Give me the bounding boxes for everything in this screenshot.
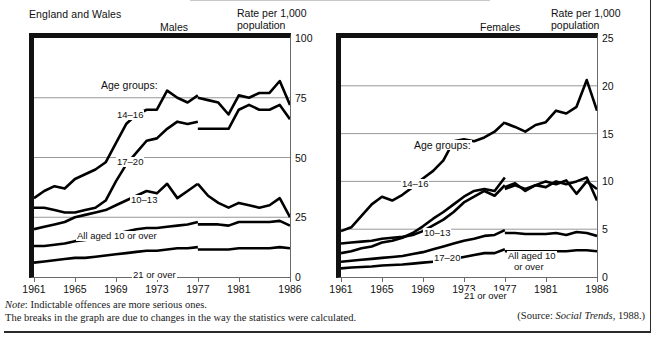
y-tick-label: 75 [295, 92, 307, 104]
x-tick-label: 1961 [18, 283, 50, 295]
figure-top-rule [190, 0, 490, 1]
x-tick-mark [341, 278, 342, 282]
y-tick-label: 25 [602, 32, 614, 44]
series-label-10-13: 10–13 [423, 228, 451, 238]
x-tick-mark [464, 278, 465, 282]
figure-note: Note: Indictable offences are more serio… [5, 299, 475, 324]
x-tick-mark [423, 278, 424, 282]
x-tick-mark [116, 278, 117, 282]
y-axis-caption-females: Rate per 1,000 population [551, 8, 620, 31]
x-tick-label: 1986 [581, 283, 613, 295]
series-label-age-groups-: Age groups: [100, 80, 159, 90]
x-tick-label: 1973 [141, 283, 173, 295]
x-tick-label: 1969 [407, 283, 439, 295]
source-title: Social Trends [556, 310, 613, 321]
plot-area-females [336, 33, 598, 278]
y-axis-caption-females-line1: Rate per 1,000 [551, 7, 620, 19]
series-canvas-males [34, 38, 290, 277]
series-line-21-or-over [34, 247, 198, 263]
x-tick-label: 1981 [223, 283, 255, 295]
x-tick-mark [546, 278, 547, 282]
y-tick-label: 25 [295, 211, 307, 223]
series-line-10-13 [34, 184, 198, 229]
series-line-17-20 [198, 105, 290, 129]
series-line-10-13 [198, 184, 290, 217]
chart-panel-males [29, 33, 291, 278]
y-tick-label: 0 [295, 271, 301, 283]
series-line-all-aged-10-or-over [505, 232, 597, 236]
series-label-all-aged-10-or-over: All aged 10 or over [76, 231, 158, 241]
series-label-17-20: 17–20 [433, 253, 461, 263]
y-axis-caption-males-line1: Rate per 1,000 [237, 7, 306, 19]
series-label-or-over: or over [513, 262, 545, 272]
region-label: England and Wales [29, 8, 121, 20]
y-tick-label: 20 [602, 80, 614, 92]
series-label-10-13: 10–13 [130, 195, 158, 205]
series-label-21-or-over: 21 or over [132, 270, 177, 280]
series-label-age-groups-: Age groups: [413, 140, 472, 150]
x-tick-mark [239, 278, 240, 282]
series-label-14-16: 14–16 [401, 179, 429, 189]
figure-right-rule [650, 0, 652, 332]
x-tick-label: 1969 [100, 283, 132, 295]
x-tick-mark [34, 278, 35, 282]
series-line-14-16 [505, 80, 597, 132]
x-tick-mark [505, 278, 506, 282]
plot-area-males [29, 33, 291, 278]
series-line-17-20 [34, 122, 198, 213]
source-suffix: , 1988.) [613, 310, 645, 321]
y-tick-label: 100 [295, 32, 313, 44]
series-line-all-aged-10-or-over [198, 221, 290, 226]
series-canvas-females [341, 38, 597, 277]
y-tick-label: 0 [602, 271, 608, 283]
series-label-all-aged-10: All aged 10 [507, 251, 557, 261]
series-label-17-20: 17–20 [116, 157, 144, 167]
y-axis-caption-males-line2: population [237, 19, 285, 31]
x-tick-label: 1981 [530, 283, 562, 295]
panel-title-males: Males [160, 21, 188, 33]
source-prefix: (Source: [517, 310, 555, 321]
figure-container: England and Wales Males Rate per 1,000 p… [0, 0, 664, 345]
x-tick-mark [290, 278, 291, 282]
series-line-21-or-over [198, 247, 290, 249]
series-label-14-16: 14–16 [116, 110, 144, 120]
x-tick-mark [198, 278, 199, 282]
x-tick-mark [597, 278, 598, 282]
note-line2: The breaks in the graph are due to chang… [5, 312, 356, 323]
x-tick-label: 1965 [59, 283, 91, 295]
figure-bottom-rule [4, 331, 651, 333]
y-tick-label: 10 [602, 175, 614, 187]
panel-title-females: Females [480, 21, 520, 33]
x-tick-label: 1977 [182, 283, 214, 295]
x-tick-label: 1965 [366, 283, 398, 295]
y-tick-label: 5 [602, 223, 608, 235]
x-tick-mark [382, 278, 383, 282]
y-tick-label: 15 [602, 128, 614, 140]
y-axis-caption-females-line2: population [551, 19, 599, 31]
note-lead: Note: Indictable offences are more serio… [5, 299, 207, 310]
x-tick-label: 1961 [325, 283, 357, 295]
y-tick-label: 50 [295, 152, 307, 164]
y-axis-caption-males: Rate per 1,000 population [237, 8, 306, 31]
x-tick-mark [75, 278, 76, 282]
chart-panel-females [336, 33, 598, 278]
figure-source: (Source: Social Trends, 1988.) [430, 310, 645, 321]
x-tick-label: 1986 [274, 283, 306, 295]
